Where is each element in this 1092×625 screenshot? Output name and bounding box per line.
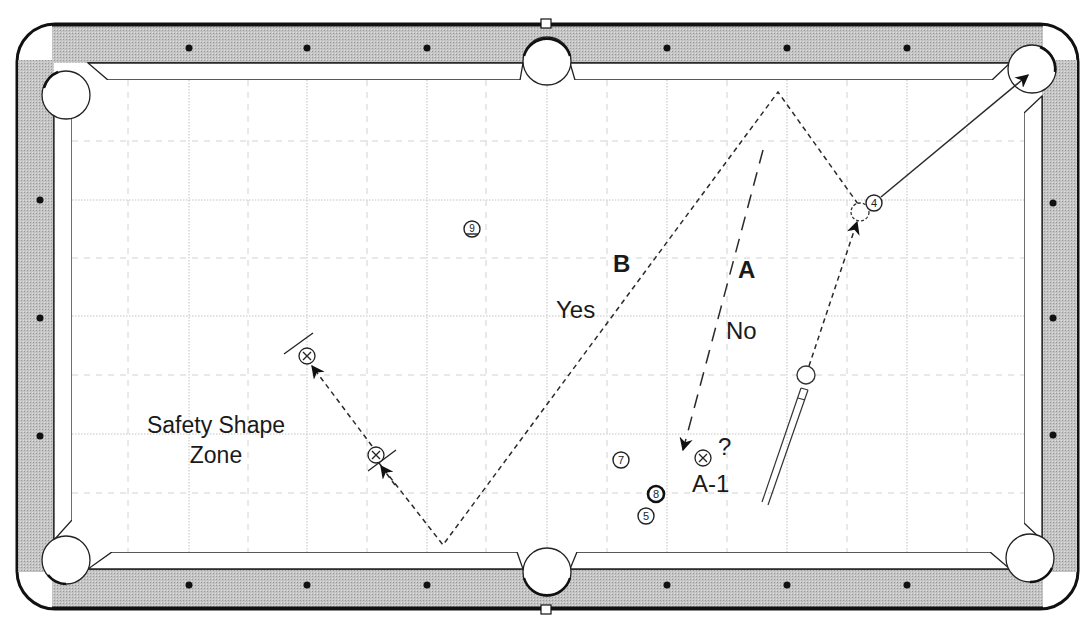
- pocket-bottom-left: [42, 536, 90, 584]
- diamond-icon: [664, 45, 671, 52]
- diamond-icon: [424, 45, 431, 52]
- pocket-top-center: [523, 37, 571, 85]
- ball-9: 9: [464, 221, 480, 237]
- bottom-side-notch: [541, 605, 551, 614]
- diamond-icon: [1050, 432, 1057, 439]
- route-a-answer: No: [726, 319, 757, 343]
- ball-5: 5: [638, 508, 654, 524]
- ball-7: 7: [613, 452, 629, 468]
- diamond-icon: [37, 197, 44, 204]
- diamond-icon: [186, 45, 193, 52]
- diamond-icon: [304, 45, 311, 52]
- pool-table-diagram: 9 4 7 8 5: [0, 0, 1092, 625]
- pocket-top-left: [42, 71, 90, 119]
- ball-number: 7: [618, 454, 624, 466]
- diamond-icon: [424, 582, 431, 589]
- diamond-icon: [304, 582, 311, 589]
- diamond-icon: [37, 315, 44, 322]
- diamond-icon: [784, 582, 791, 589]
- diamond-icon: [1050, 200, 1057, 207]
- diamond-icon: [664, 582, 671, 589]
- top-side-notch: [541, 19, 551, 28]
- pocket-bottom-center: [523, 548, 571, 596]
- ball-4: 4: [866, 195, 882, 211]
- table-canvas: 9 4 7 8 5: [0, 0, 1092, 625]
- ball-number: 4: [871, 197, 877, 209]
- route-b-answer: Yes: [556, 298, 595, 322]
- safety-zone-label-line1: Safety Shape: [116, 414, 316, 437]
- ball-number: 8: [653, 488, 659, 500]
- diamond-icon: [37, 433, 44, 440]
- diamond-icon: [1050, 315, 1057, 322]
- diamond-icon: [904, 45, 911, 52]
- ball-number: 9: [469, 223, 475, 234]
- target-label-a1: A-1: [692, 472, 729, 496]
- target-question-mark: ?: [718, 435, 731, 459]
- diamond-icon: [784, 45, 791, 52]
- route-b-label: B: [613, 252, 630, 276]
- diamond-icon: [904, 582, 911, 589]
- pocket-bottom-right: [1006, 534, 1054, 582]
- ball-number: 5: [643, 510, 649, 522]
- target-x-a1: [695, 450, 711, 466]
- safety-zone-label-line2: Zone: [116, 444, 316, 467]
- cue-ball: [797, 366, 815, 384]
- ball-8: 8: [648, 486, 664, 502]
- diamond-icon: [186, 582, 193, 589]
- playing-surface: [72, 80, 1024, 552]
- route-a-label: A: [738, 258, 755, 282]
